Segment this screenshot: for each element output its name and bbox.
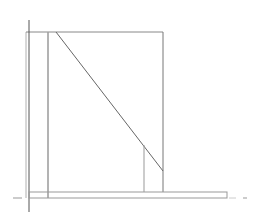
diagram-canvas [0, 0, 262, 224]
diagonal-line [56, 32, 163, 171]
base-rect [29, 192, 227, 198]
